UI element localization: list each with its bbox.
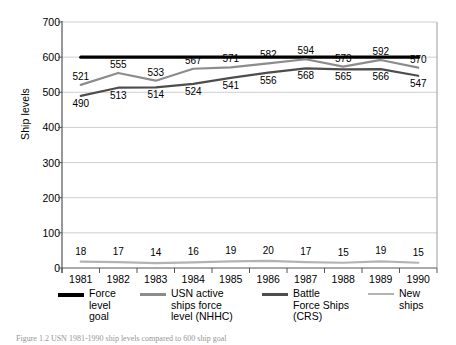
legend-label: Battle Force Ships (CRS) — [293, 288, 349, 323]
data-label: 566 — [364, 72, 398, 82]
data-label: 555 — [101, 60, 135, 70]
data-label: 490 — [64, 99, 98, 109]
data-label: 18 — [64, 247, 98, 257]
x-tick-label: 1984 — [173, 274, 213, 285]
chart-legend: Force level goalUSN active ships force l… — [0, 288, 456, 334]
figure-caption: Figure 1.2 USN 1981-1990 ship levels com… — [16, 334, 226, 343]
legend-item[interactable]: USN active ships force level (NHHC) — [140, 288, 233, 323]
x-tick-label: 1981 — [61, 274, 101, 285]
data-label: 556 — [251, 76, 285, 86]
data-label: 570 — [401, 55, 435, 65]
data-label: 19 — [214, 246, 248, 256]
data-label: 17 — [101, 247, 135, 257]
data-label: 15 — [326, 248, 360, 258]
x-tick-label: 1986 — [248, 274, 288, 285]
data-label: 547 — [401, 79, 435, 89]
data-label: 565 — [326, 72, 360, 82]
legend-swatch-icon — [262, 293, 288, 296]
data-label: 513 — [101, 91, 135, 101]
legend-label: USN active ships force level (NHHC) — [171, 288, 233, 323]
data-label: 541 — [214, 81, 248, 91]
data-label: 533 — [139, 68, 173, 78]
legend-item[interactable]: Battle Force Ships (CRS) — [262, 288, 349, 323]
data-label: 582 — [251, 50, 285, 60]
x-tick-label: 1987 — [286, 274, 326, 285]
series-line-3 — [81, 261, 419, 263]
legend-swatch-icon — [140, 293, 166, 296]
data-label: 521 — [64, 72, 98, 82]
data-label: 594 — [289, 46, 323, 56]
data-label: 15 — [401, 248, 435, 258]
data-label: 20 — [251, 246, 285, 256]
x-tick-label: 1983 — [136, 274, 176, 285]
data-label: 514 — [139, 90, 173, 100]
data-label: 567 — [176, 56, 210, 66]
data-label: 16 — [176, 247, 210, 257]
data-label: 573 — [326, 54, 360, 64]
data-label: 524 — [176, 87, 210, 97]
legend-label: Force level goal — [89, 288, 116, 323]
x-tick-label: 1988 — [323, 274, 363, 285]
data-label: 19 — [364, 246, 398, 256]
data-label: 14 — [139, 248, 173, 258]
x-tick-label: 1982 — [98, 274, 138, 285]
x-tick-label: 1985 — [211, 274, 251, 285]
data-label: 592 — [364, 47, 398, 57]
x-tick-label: 1990 — [398, 274, 438, 285]
chart-container: Ship levels 7006005004003002001000 19811… — [0, 0, 456, 345]
x-tick-label: 1989 — [361, 274, 401, 285]
legend-swatch-icon — [58, 293, 84, 297]
legend-item[interactable]: Force level goal — [58, 288, 116, 323]
data-label: 568 — [289, 71, 323, 81]
data-label: 571 — [214, 54, 248, 64]
legend-label: New ships — [399, 288, 424, 311]
legend-item[interactable]: New ships — [368, 288, 424, 311]
data-label: 17 — [289, 247, 323, 257]
legend-swatch-icon — [368, 293, 394, 295]
